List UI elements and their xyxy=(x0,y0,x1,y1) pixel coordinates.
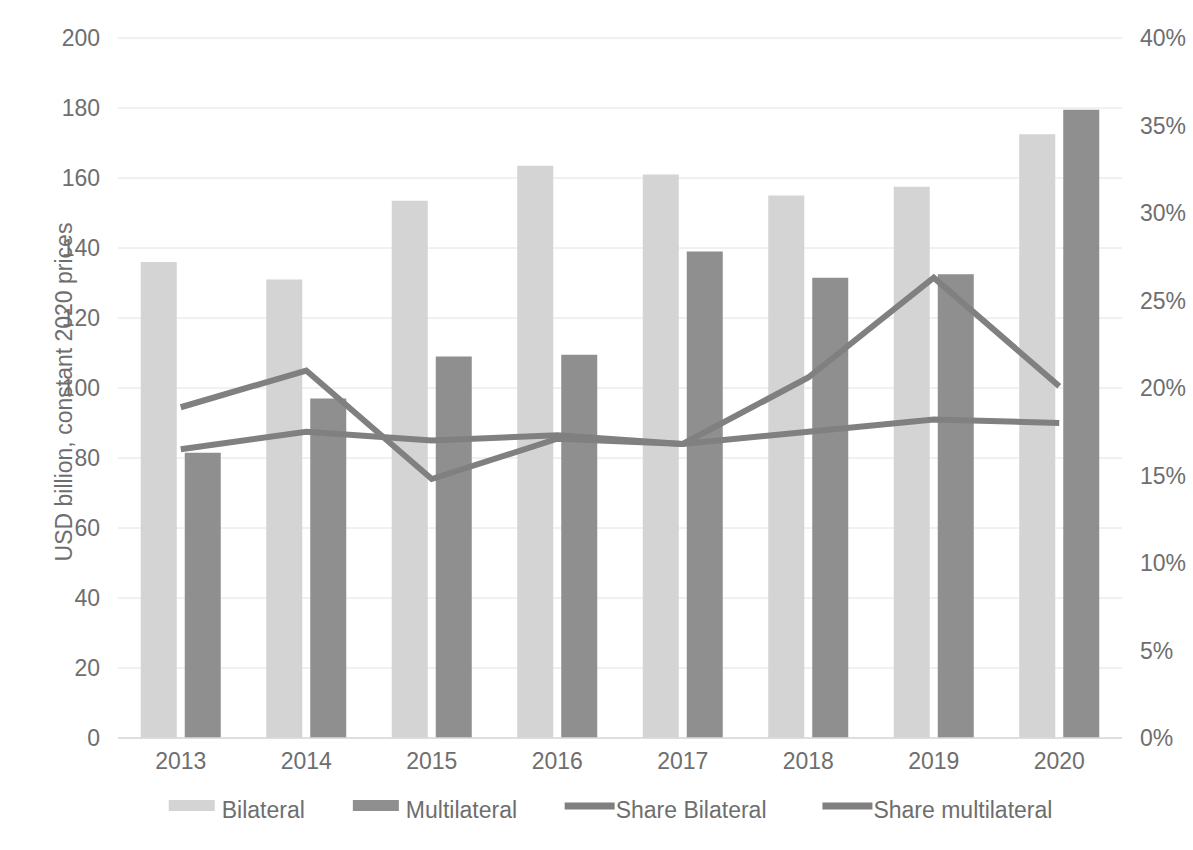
x-axis-label-2015: 2015 xyxy=(406,748,457,774)
bar-bilateral-2013 xyxy=(141,262,177,738)
y-axis-tick-label: 80 xyxy=(74,445,100,471)
y-axis-tick-label: 60 xyxy=(74,515,100,541)
bar-bilateral-2019 xyxy=(894,187,930,738)
x-axis-label-2020: 2020 xyxy=(1034,748,1085,774)
secondary-y-axis-tick-label: 15% xyxy=(1140,463,1186,489)
y-axis-tick-label: 160 xyxy=(62,165,100,191)
y-axis-tick-label: 0 xyxy=(87,725,100,751)
legend-label: Share multilateral xyxy=(873,797,1052,823)
bar-multilateral-2020 xyxy=(1063,110,1099,738)
y-axis-title: USD billion, constant 2020 prices xyxy=(51,223,77,562)
legend-label: Bilateral xyxy=(222,797,305,823)
bar-bilateral-2020 xyxy=(1019,134,1055,738)
x-axis-label-2018: 2018 xyxy=(783,748,834,774)
combo-chart: 020406080100120140160180200 0%5%10%15%20… xyxy=(0,0,1193,850)
bar-bilateral-2017 xyxy=(643,175,679,739)
secondary-y-axis-tick-label: 25% xyxy=(1140,288,1186,314)
secondary-y-axis-tick-label: 5% xyxy=(1140,638,1173,664)
secondary-y-axis-tick-label: 30% xyxy=(1140,200,1186,226)
secondary-y-axis-tick-label: 0% xyxy=(1140,725,1173,751)
bar-multilateral-2013 xyxy=(185,453,221,738)
legend-swatch-icon xyxy=(353,800,399,811)
bar-bilateral-2018 xyxy=(768,196,804,739)
secondary-y-axis-tick-label: 40% xyxy=(1140,25,1186,51)
x-axis-label-2014: 2014 xyxy=(281,748,332,774)
x-axis-label-2019: 2019 xyxy=(908,748,959,774)
bar-bilateral-2014 xyxy=(266,280,302,739)
bar-multilateral-2015 xyxy=(436,357,472,739)
chart-container: 020406080100120140160180200 0%5%10%15%20… xyxy=(0,0,1193,850)
x-axis-label-2016: 2016 xyxy=(532,748,583,774)
secondary-y-axis-tick-label: 10% xyxy=(1140,550,1186,576)
bar-multilateral-2014 xyxy=(310,399,346,739)
y-axis-tick-label: 20 xyxy=(74,655,100,681)
y-axis-tick-label: 180 xyxy=(62,95,100,121)
x-axis-label-2013: 2013 xyxy=(155,748,206,774)
x-axis-label-2017: 2017 xyxy=(657,748,708,774)
secondary-y-axis-tick-label: 35% xyxy=(1140,113,1186,139)
bar-multilateral-2017 xyxy=(687,252,723,739)
bar-multilateral-2016 xyxy=(561,355,597,738)
y-axis-tick-label: 40 xyxy=(74,585,100,611)
y-axis-tick-label: 200 xyxy=(62,25,100,51)
legend-swatch-icon xyxy=(169,800,215,811)
legend-label: Multilateral xyxy=(406,797,517,823)
secondary-y-axis-tick-label: 20% xyxy=(1140,375,1186,401)
bar-multilateral-2019 xyxy=(938,274,974,738)
legend-label: Share Bilateral xyxy=(616,797,767,823)
